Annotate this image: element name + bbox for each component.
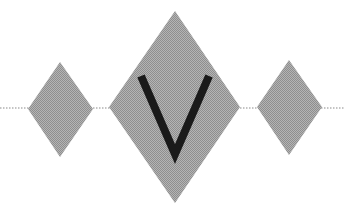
diamond-large-center: [109, 11, 240, 203]
diamond-small-left: [28, 62, 93, 157]
diamond-v-emblem: V: [0, 0, 345, 213]
diamond-small-right: [257, 60, 322, 155]
